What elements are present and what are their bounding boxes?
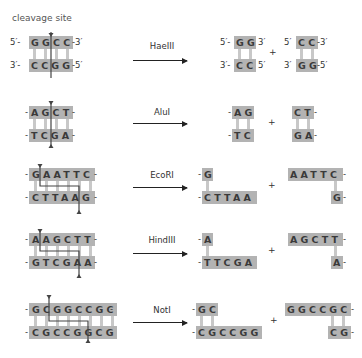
strand-end-dash: - — [351, 326, 354, 339]
strand-end-dash: - — [192, 326, 195, 339]
strand-end-dash: - — [192, 303, 195, 316]
fragment-top-sequence: GC — [198, 303, 219, 316]
enzyme-name: NotI — [132, 305, 192, 315]
fragment-bottom-sequence: CGCCGG — [198, 326, 262, 339]
strand-end-dash: - — [351, 303, 354, 316]
reaction-arrow-icon — [133, 322, 187, 323]
fragment-bottom-sequence: CG — [330, 326, 351, 339]
fragment-top-sequence: GGCCGC — [287, 303, 351, 316]
plus-sign: + — [270, 315, 278, 325]
